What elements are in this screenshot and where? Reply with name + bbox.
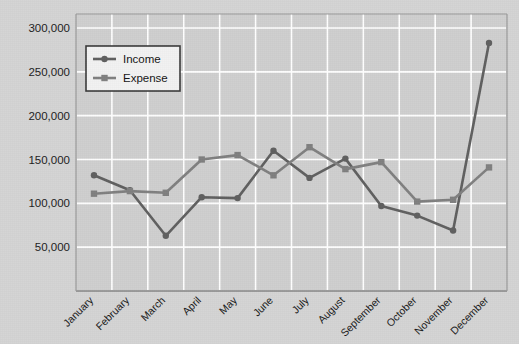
legend-marker-income [101,56,107,62]
y-axis-tick-label: 150,000 [28,154,70,166]
data-point-income [91,172,97,178]
data-point-income [270,148,276,154]
legend-marker-expense [101,75,107,81]
data-point-income [414,212,420,218]
chart-legend: IncomeExpense [86,46,180,91]
data-point-expense [234,152,240,158]
data-point-income [234,195,240,201]
data-point-expense [414,198,420,204]
line-chart: 50,000100,000150,000200,000250,000300,00… [0,0,519,344]
data-point-income [163,233,169,239]
data-point-expense [342,166,348,172]
chart-canvas: 50,000100,000150,000200,000250,000300,00… [0,0,519,344]
data-point-expense [270,172,276,178]
data-point-income [486,40,492,46]
y-axis-tick-label: 300,000 [28,22,70,34]
data-point-expense [378,159,384,165]
data-point-income [450,227,456,233]
y-axis-tick-label: 50,000 [35,241,70,253]
data-point-expense [91,191,97,197]
y-axis-tick-label: 100,000 [28,197,70,209]
y-axis-tick-label: 250,000 [28,66,70,78]
legend-label-expense: Expense [123,72,168,84]
data-point-expense [306,144,312,150]
data-point-expense [486,164,492,170]
data-point-income [199,194,205,200]
data-point-expense [450,197,456,203]
data-point-income [378,203,384,209]
y-axis-tick-label: 200,000 [28,110,70,122]
data-point-expense [163,190,169,196]
data-point-expense [199,156,205,162]
data-point-income [342,155,348,161]
data-point-income [306,175,312,181]
legend-label-income: Income [123,53,161,65]
data-point-expense [127,188,133,194]
